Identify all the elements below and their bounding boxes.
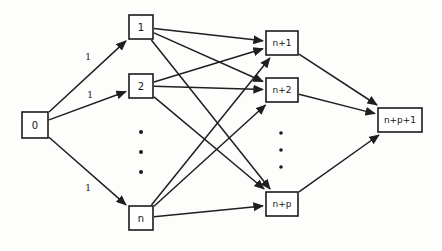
edge-right2-to-sink	[299, 94, 375, 113]
edge-weight-label: 1	[85, 183, 91, 193]
network-flow-diagram: 012nn+1n+2n+pn+p+1 111	[0, 0, 442, 251]
edge-weight-label: 1	[87, 90, 93, 100]
node-right1: n+1	[266, 31, 298, 55]
right-ellipsis-dot	[279, 148, 283, 152]
node-source: 0	[22, 112, 48, 138]
node-label-left2: 2	[138, 81, 144, 92]
node-rightp: n+p	[266, 192, 298, 216]
ellipses-layer	[139, 130, 283, 174]
left-ellipsis-dot	[139, 130, 143, 134]
edge-left1-to-right1	[154, 28, 263, 40]
left-ellipsis-dot	[139, 150, 143, 154]
node-label-right2: n+2	[273, 85, 292, 95]
node-label-leftn: n	[138, 213, 144, 224]
left-ellipsis-dot	[139, 170, 143, 174]
node-label-right1: n+1	[273, 38, 292, 48]
node-left1: 1	[129, 15, 153, 39]
edge-leftn-to-right2	[154, 105, 265, 206]
edge-left1-to-rightp	[151, 40, 270, 189]
node-sink: n+p+1	[378, 108, 422, 132]
edge-source-to-leftn	[49, 137, 126, 205]
right-ellipsis-dot	[279, 165, 283, 169]
node-label-rightp: n+p	[273, 199, 292, 209]
edge-left2-to-right1	[154, 49, 263, 82]
node-left2: 2	[129, 74, 153, 98]
edge-weight-label: 1	[85, 52, 91, 62]
edges-layer	[49, 28, 379, 216]
node-leftn: n	[129, 206, 153, 230]
edge-rightp-to-sink	[299, 135, 379, 192]
graph-canvas: 012nn+1n+2n+pn+p+1 111	[0, 0, 442, 251]
edge-leftn-to-rightp	[154, 206, 263, 217]
edge-leftn-to-right1	[151, 58, 269, 205]
node-label-source: 0	[32, 120, 38, 131]
nodes-layer: 012nn+1n+2n+pn+p+1	[22, 15, 422, 230]
node-label-left1: 1	[138, 22, 144, 33]
right-ellipsis-dot	[279, 131, 283, 135]
node-label-sink: n+p+1	[384, 115, 416, 125]
edge-left2-to-rightp	[154, 97, 264, 189]
node-right2: n+2	[266, 78, 298, 102]
edge-left1-to-right2	[154, 33, 263, 82]
